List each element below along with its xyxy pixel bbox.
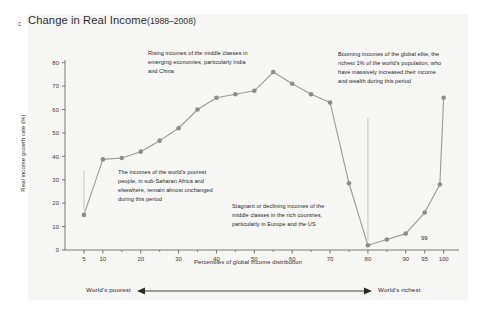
data-point-marker [309,92,314,97]
line-chart-svg: 01020304050607080 5102030405060708090951… [0,0,496,320]
y-axis: 01020304050607080 [52,60,65,253]
annotation-stagnant-rich-middle: Stagnant or declining incomes of the mid… [232,202,336,229]
footer-row: World's poorest World's richest [0,284,496,306]
annotation-poorest-unchanged: The incomes of the world's poorest peopl… [118,168,218,204]
data-point-marker [347,181,352,186]
y-axis-tick-label: 20 [52,200,59,206]
data-point-marker [441,96,446,101]
data-point-marker [195,107,200,112]
data-point-marker [252,88,257,93]
y-axis-tick-label: 80 [52,60,59,66]
y-axis-tick-label: 70 [52,83,59,89]
data-point-marker [290,81,295,86]
y-axis-tick-label: 40 [52,154,59,160]
data-point-marker [422,210,427,215]
data-point-marker [385,237,390,242]
data-point-marker [214,96,219,101]
data-point-marker [138,149,143,154]
data-point-label-99: 99 [421,235,428,241]
y-axis-title: Real income growth rate (%) [20,88,26,218]
footer-label-poorest: World's poorest [86,286,131,293]
y-axis-tick-label: 60 [52,107,59,113]
data-point-marker [101,157,106,162]
data-point-marker [271,70,276,75]
x-axis-title: Percentiles of global income distributio… [0,259,496,265]
y-axis-tick-label: 50 [52,130,59,136]
annotation-booming-elite: Booming incomes of the global elite, the… [338,50,444,86]
data-point-marker [366,243,371,248]
data-point-marker [120,156,125,161]
data-point-marker [233,92,238,97]
y-axis-tick-label: 0 [56,247,60,253]
y-axis-tick-label: 30 [52,177,59,183]
data-point-marker [157,138,162,143]
data-point-marker [82,213,87,218]
y-axis-tick-label: 10 [52,224,59,230]
data-point-marker [328,100,333,105]
data-point-marker [403,231,408,236]
annotation-rising-middle-classes: Rising incomes of the middle classes in … [148,49,252,76]
footer-label-richest: World's richest [378,286,421,293]
data-point-marker [176,126,181,131]
data-point-marker [438,182,443,187]
